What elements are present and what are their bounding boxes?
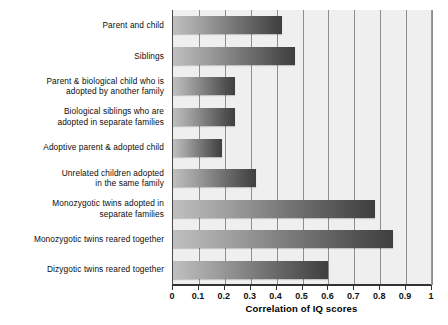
x-tick	[198, 285, 199, 290]
x-axis-title: Correlation of IQ scores	[172, 303, 431, 314]
x-tick-label: 0.8	[373, 291, 386, 301]
gridline-1.0	[432, 10, 433, 285]
x-tick-label: 0.9	[399, 291, 412, 301]
category-label-line: Parent and child	[0, 20, 164, 31]
category-label-line: adopted in separate families	[0, 117, 164, 128]
category-label: Monozygotic twins reared together	[0, 234, 164, 245]
x-tick	[302, 285, 303, 290]
category-label-line: Biological siblings who are	[0, 106, 164, 117]
bar	[173, 261, 328, 279]
x-tick-label: 0.1	[192, 291, 205, 301]
category-label-line: Adoptive parent & adopted child	[0, 142, 164, 153]
x-tick	[353, 285, 354, 290]
bar	[173, 16, 282, 34]
category-label: Monozygotic twins adopted inseparate fam…	[0, 198, 164, 219]
x-tick	[250, 285, 251, 290]
x-tick-label: 0	[169, 291, 174, 301]
category-label: Biological siblings who areadopted in se…	[0, 106, 164, 127]
x-tick-label: 0.5	[295, 291, 308, 301]
gridline-0.9	[406, 10, 407, 285]
bar	[173, 169, 256, 187]
plot-right-edge	[431, 10, 432, 285]
category-label-line: Monozygotic twins adopted in	[0, 198, 164, 209]
category-label-line: Parent & biological child who is	[0, 76, 164, 87]
category-label: Dizygotic twins reared together	[0, 264, 164, 275]
category-label: Unrelated children adoptedin the same fa…	[0, 168, 164, 189]
category-label-line: Unrelated children adopted	[0, 168, 164, 179]
category-label: Siblings	[0, 51, 164, 62]
x-tick	[431, 285, 432, 290]
x-tick-label: 0.3	[243, 291, 256, 301]
figure-caption-cropped	[4, 320, 254, 325]
category-label-column: Parent and childSiblingsParent & biologi…	[0, 10, 168, 285]
x-tick-label: 0.7	[347, 291, 360, 301]
category-label: Adoptive parent & adopted child	[0, 142, 164, 153]
bar	[173, 230, 393, 248]
category-label: Parent & biological child who isadopted …	[0, 76, 164, 97]
x-tick	[172, 285, 173, 290]
bar	[173, 108, 235, 126]
category-label-line: Siblings	[0, 51, 164, 62]
bar	[173, 47, 295, 65]
x-tick-label: 0.6	[321, 291, 334, 301]
plot-area	[172, 10, 432, 285]
category-label-line: Dizygotic twins reared together	[0, 264, 164, 275]
x-tick	[379, 285, 380, 290]
bar	[173, 77, 235, 95]
bar	[173, 200, 375, 218]
category-label: Parent and child	[0, 20, 164, 31]
x-tick-label: 0.2	[218, 291, 231, 301]
category-label-line: in the same family	[0, 178, 164, 189]
x-tick	[276, 285, 277, 290]
category-label-line: separate families	[0, 209, 164, 220]
figure: Parent and childSiblingsParent & biologi…	[0, 0, 448, 325]
x-tick	[224, 285, 225, 290]
x-tick-label: 1	[428, 291, 433, 301]
category-label-line: Monozygotic twins reared together	[0, 234, 164, 245]
x-tick	[405, 285, 406, 290]
x-tick	[327, 285, 328, 290]
x-tick-label: 0.4	[269, 291, 282, 301]
category-label-line: adopted by another family	[0, 86, 164, 97]
bar	[173, 139, 222, 157]
